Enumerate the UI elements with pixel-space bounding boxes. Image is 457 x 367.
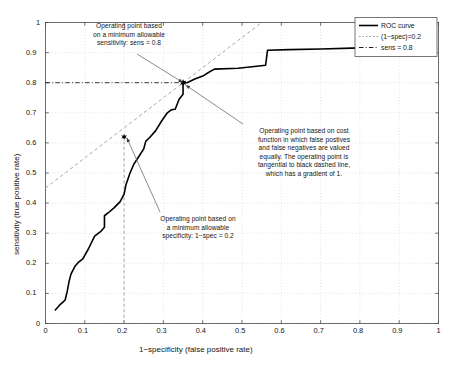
y-tick-label: 0.4 xyxy=(26,198,36,207)
x-tick-label: 0.1 xyxy=(78,326,88,335)
roc-curve-figure: Operating point based on a minimum allow… xyxy=(0,0,457,367)
x-tick-label: 1 xyxy=(437,326,441,335)
x-tick-label: 0.9 xyxy=(392,326,402,335)
legend-label-roc-curve: ROC curve xyxy=(381,22,415,29)
x-tick-label: 0.5 xyxy=(235,326,245,335)
y-tick-label: 0.2 xyxy=(26,258,36,267)
y-tick-label: 0.1 xyxy=(26,288,36,297)
x-tick-label: 0.2 xyxy=(117,326,127,335)
y-tick-label: 0.3 xyxy=(26,228,36,237)
y-tick-label: 0.5 xyxy=(26,168,36,177)
legend-label-spec: (1−spec)=0.2 xyxy=(381,33,421,40)
plot-canvas xyxy=(0,0,457,367)
y-tick-label: 0.8 xyxy=(26,78,36,87)
y-tick-label: 1 xyxy=(36,18,40,27)
y-axis-title: sensitivity (true positive rate) xyxy=(12,154,21,255)
x-tick-label: 0 xyxy=(44,326,48,335)
x-tick-label: 0.6 xyxy=(274,326,284,335)
x-tick-label: 0.3 xyxy=(156,326,166,335)
x-tick-label: 0.7 xyxy=(314,326,324,335)
annotation-min-sensitivity: Operating point based on a minimum allow… xyxy=(62,22,196,48)
annotation-cost-function: Operating point based on cost function i… xyxy=(228,127,380,179)
annotation-leader-lines xyxy=(127,54,243,212)
annotation-min-specificity: Operating point based on a minimum allow… xyxy=(128,215,268,241)
y-tick-label: 0.6 xyxy=(26,138,36,147)
y-tick-label: 0.9 xyxy=(26,48,36,57)
x-tick-label: 0.8 xyxy=(353,326,363,335)
x-axis-title: 1−specificity (false positive rate) xyxy=(139,345,253,354)
legend-label-sens: sens = 0.8 xyxy=(381,44,413,51)
y-tick-label: 0.7 xyxy=(26,108,36,117)
x-tick-label: 0.4 xyxy=(196,326,206,335)
y-tick-label: 0 xyxy=(36,319,40,328)
